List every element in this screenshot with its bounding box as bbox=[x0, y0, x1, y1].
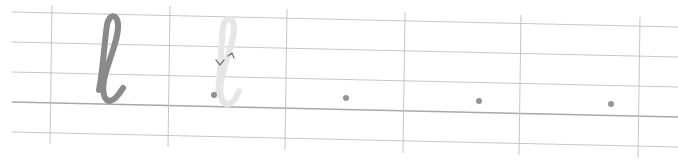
baseline bbox=[12, 102, 678, 117]
descender-line bbox=[12, 132, 678, 147]
worksheet-grid bbox=[0, 0, 678, 161]
handwriting-worksheet bbox=[0, 0, 678, 161]
model-letter-l bbox=[99, 16, 123, 101]
cell-divider bbox=[168, 6, 170, 147]
trace-letter-l bbox=[218, 19, 239, 104]
cell-divider bbox=[50, 5, 52, 144]
cell-divider bbox=[285, 9, 287, 150]
cell-divider bbox=[638, 17, 640, 158]
cell-divider bbox=[519, 15, 521, 155]
cell-divider bbox=[403, 12, 405, 153]
midline bbox=[12, 72, 678, 87]
start-dot-icon bbox=[343, 95, 349, 101]
start-dot-icon bbox=[476, 98, 482, 104]
start-dot-icon bbox=[211, 92, 217, 98]
horizontal-lines bbox=[12, 12, 678, 147]
start-dot-icon bbox=[608, 101, 614, 107]
